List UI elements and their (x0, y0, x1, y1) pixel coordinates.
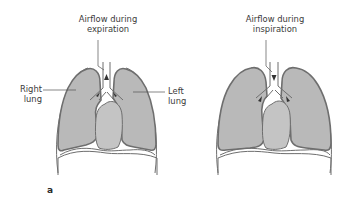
inspiration-heart (262, 101, 290, 149)
right-lung-label: Right lung (14, 84, 42, 104)
right-lung (58, 69, 101, 151)
inspiration-title: Airflow during inspiration (239, 14, 311, 34)
expiration-diagram (43, 40, 165, 175)
inspiration-right-lung (218, 68, 267, 151)
airflow-down-arrow (272, 75, 277, 81)
left-lung-label: Left lung (168, 86, 196, 106)
panel-label: a (47, 185, 53, 195)
inspiration-diagram (217, 40, 332, 175)
heart (95, 101, 122, 149)
airflow-up-arrow (104, 74, 109, 80)
expiration-title: Airflow during expiration (72, 14, 144, 34)
